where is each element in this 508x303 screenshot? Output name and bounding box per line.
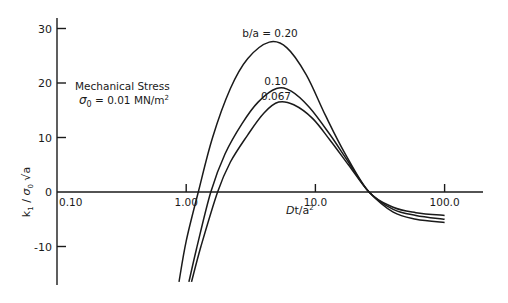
annotation-line2: σ0 = 0.01 MN/m2 [79, 93, 169, 109]
y-tick-label: 30 [38, 23, 52, 36]
series-curve [179, 41, 445, 281]
sup-2: 2 [165, 94, 169, 102]
y-ticks: 3020100-10 [34, 23, 66, 254]
series-label: 0.067 [261, 90, 291, 102]
annotation-line1: Mechanical Stress [75, 80, 170, 92]
y-axis-label: k1 / σ0 √a [20, 167, 35, 217]
series-labels: b/a = 0.200.100.067 [242, 27, 298, 102]
series-curve [189, 88, 445, 282]
curves [179, 41, 445, 281]
x-tick-label: 100.0 [430, 196, 460, 208]
y-tick-label: 10 [38, 132, 52, 145]
y-tick-label: 20 [38, 77, 52, 90]
x-axis-label: Dt/a2 [286, 204, 314, 217]
series-label: b/a = 0.20 [242, 27, 298, 39]
x-tick-label: 0.10 [59, 196, 82, 208]
series-label: 0.10 [264, 75, 287, 87]
x-ticks: 0.101.0010.0100.0 [59, 184, 460, 208]
chart: 3020100-10 0.101.0010.0100.0 Mechanical … [0, 0, 508, 303]
y-tick-label: -10 [34, 241, 52, 254]
annotation-value: = 0.01 MN/m [92, 94, 165, 106]
axes [57, 18, 483, 285]
y-tick-label: 0 [45, 186, 52, 199]
